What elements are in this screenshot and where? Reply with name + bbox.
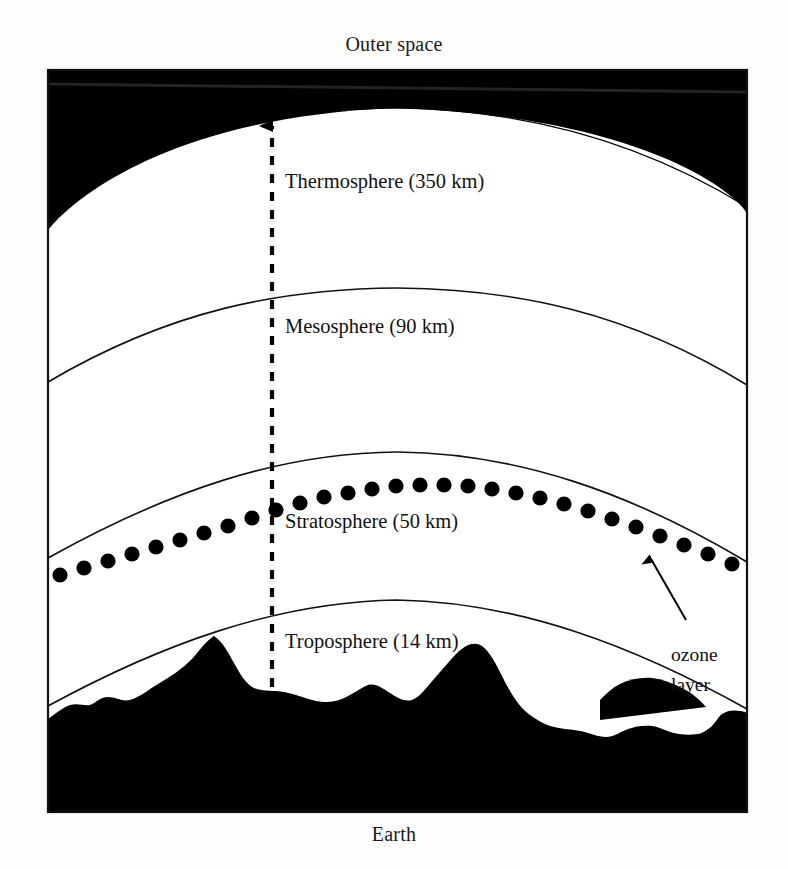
ozone-label-line1: ozone xyxy=(671,644,718,665)
layer-label-troposphere: Troposphere (14 km) xyxy=(285,630,458,653)
layer-label-thermosphere: Thermosphere (350 km) xyxy=(285,170,484,193)
earth-label: Earth xyxy=(0,823,788,846)
ozone-label-line2: layer xyxy=(671,674,710,695)
layer-label-mesosphere: Mesosphere (90 km) xyxy=(285,315,455,338)
diagram-canvas: Thermosphere (350 km) Mesosphere (90 km)… xyxy=(0,0,788,869)
layer-label-stratosphere: Stratosphere (50 km) xyxy=(285,510,458,533)
atmosphere-diagram-figure: Outer space xyxy=(0,0,788,869)
